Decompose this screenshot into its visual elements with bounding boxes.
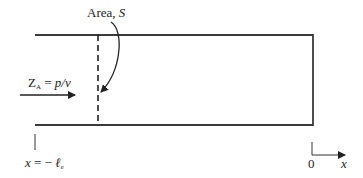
position-label: x = − ℓe <box>25 156 64 171</box>
area-pointer-arrow <box>101 22 119 92</box>
area-label: Area, S <box>87 6 125 19</box>
impedance-label: ZA = p/v <box>28 76 71 91</box>
x-axis-label: x <box>341 157 347 170</box>
origin-label: 0 <box>308 157 315 170</box>
